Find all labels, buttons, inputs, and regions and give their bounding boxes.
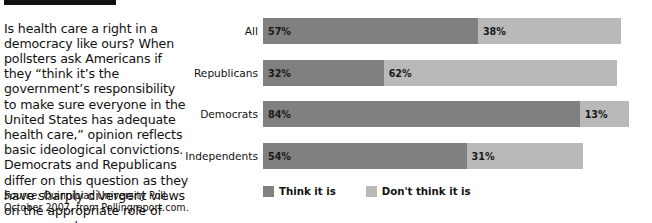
bar-segment-think-democrats: 84% [263,101,580,127]
bar-segment-dont-think-independents: 31% [467,143,584,169]
bar-value-think-democrats: 84% [268,109,291,120]
bar-value-think-independents: 54% [268,151,291,162]
legend-swatch-dont-think-it-is [366,186,377,197]
category-label-all: All [196,18,258,44]
text-column: Is health care a right in a democracy li… [4,0,194,223]
chart-row-independents: Independents 54% 31% [196,143,640,169]
bar-value-think-republicans: 32% [268,68,291,79]
bar-track-independents: 54% 31% [263,143,640,169]
legend-label-think-it-is: Think it is [279,186,336,197]
bar-segment-think-all: 57% [263,18,478,44]
bar-value-dont-think-all: 38% [483,26,506,37]
category-label-independents: Independents [196,143,258,169]
chart-row-democrats: Democrats 84% 13% [196,101,640,127]
source-citation: Source: Quinnipiac University Poll, Octo… [4,190,194,213]
bar-track-all: 57% 38% [263,18,640,44]
bar-segment-think-independents: 54% [263,143,467,169]
bar-value-think-all: 57% [268,26,291,37]
chart-row-all: All 57% 38% [196,18,640,44]
bar-segment-dont-think-all: 38% [478,18,621,44]
chart-legend: Think it is Don't think it is [263,184,501,198]
bar-track-republicans: 32% 62% [263,60,640,86]
legend-label-dont-think-it-is: Don't think it is [382,186,471,197]
source-label: Source: [4,190,40,201]
category-label-democrats: Democrats [196,101,258,127]
legend-swatch-think-it-is [263,186,274,197]
bar-segment-think-republicans: 32% [263,60,384,86]
bar-segment-dont-think-republicans: 62% [384,60,618,86]
bar-value-dont-think-independents: 31% [472,151,495,162]
top-rule-divider [4,0,116,5]
category-label-republicans: Republicans [196,60,258,86]
legend-item-dont-think-it-is: Don't think it is [366,186,471,197]
stacked-bar-chart: All 57% 38% Republicans 32% 62% Democrat… [196,0,652,223]
bar-value-dont-think-republicans: 62% [389,68,412,79]
infographic-figure: Is health care a right in a democracy li… [0,0,652,223]
bar-value-dont-think-democrats: 13% [585,109,608,120]
legend-item-think-it-is: Think it is [263,186,336,197]
chart-row-republicans: Republicans 32% 62% [196,60,640,86]
bar-segment-dont-think-democrats: 13% [580,101,629,127]
bar-track-democrats: 84% 13% [263,101,640,127]
